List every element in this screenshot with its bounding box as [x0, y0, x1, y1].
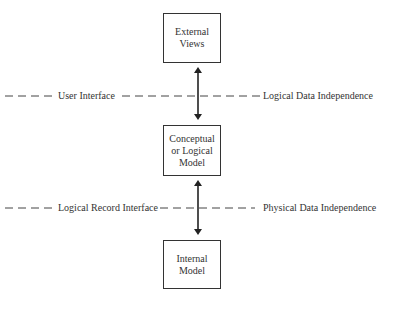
internal-model-line-1: Internal	[176, 253, 207, 265]
internal-model-line-2: Model	[176, 265, 207, 277]
user-interface-label: User Interface	[57, 90, 116, 102]
logical-record-interface-label: Logical Record Interface	[57, 202, 159, 214]
conceptual-model-line-1: Conceptual	[169, 133, 215, 145]
conceptual-model-line-3: Model	[169, 157, 215, 169]
logical-data-independence-label: Logical Data Independence	[262, 90, 374, 102]
diagram-canvas: External Views Conceptual or Logical Mod…	[0, 0, 397, 311]
internal-model-box: Internal Model	[163, 240, 221, 289]
conceptual-model-line-2: or Logical	[169, 145, 215, 157]
external-views-line-2: Views	[175, 38, 209, 50]
external-views-box: External Views	[163, 13, 221, 63]
physical-data-independence-label: Physical Data Independence	[262, 202, 377, 214]
external-views-line-1: External	[175, 26, 209, 38]
conceptual-model-box: Conceptual or Logical Model	[163, 125, 221, 176]
